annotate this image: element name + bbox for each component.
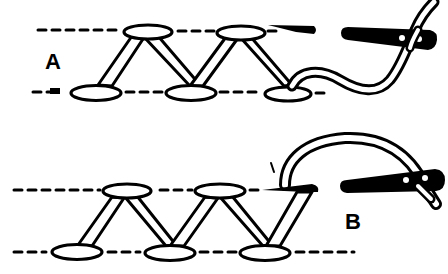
stitch-strands-a	[98, 36, 292, 86]
stitch-strands-b	[78, 192, 312, 246]
panel-label-a: A	[45, 51, 61, 73]
stitch-diagram	[0, 0, 448, 274]
panel-label-b: B	[345, 211, 361, 233]
panel-b	[14, 138, 445, 261]
panel-a	[33, 2, 437, 101]
